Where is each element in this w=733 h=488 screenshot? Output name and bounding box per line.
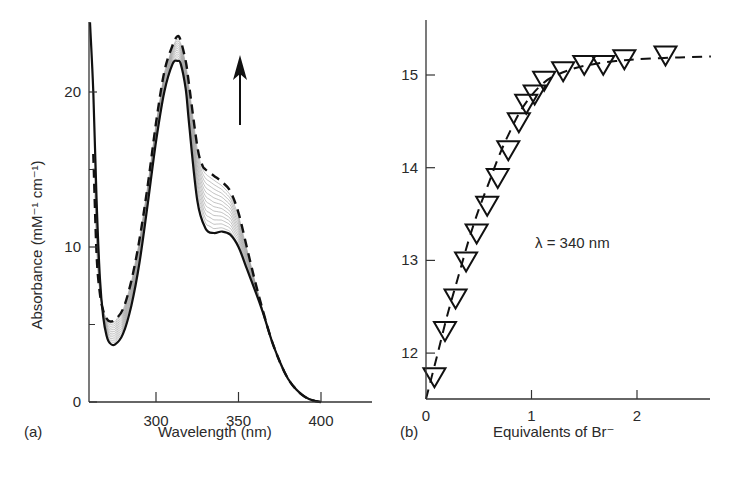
inverted-triangle-marker bbox=[445, 289, 467, 308]
inverted-triangle-marker bbox=[476, 197, 498, 216]
inverted-triangle-marker bbox=[466, 225, 488, 244]
panel-a-axes: 30035040001020 bbox=[64, 22, 372, 429]
svg-text:20: 20 bbox=[64, 83, 81, 100]
panel-b-titration-curve: 01212131415 λ = 340 nm (b) Equivalents o… bbox=[400, 20, 711, 440]
inverted-triangle-marker bbox=[508, 113, 530, 132]
svg-text:1: 1 bbox=[527, 407, 535, 424]
data-markers bbox=[423, 47, 676, 388]
svg-text:15: 15 bbox=[401, 66, 418, 83]
inverted-triangle-marker bbox=[455, 252, 477, 271]
initial-spectrum-line bbox=[90, 22, 321, 402]
panel-a-absorbance-spectra: 30035040001020 (a) Wavelength (nm) Absor… bbox=[24, 22, 372, 440]
svg-text:400: 400 bbox=[308, 412, 333, 429]
intermediate-traces bbox=[95, 39, 320, 402]
panel-b-xlabel: Equivalents of Br⁻ bbox=[493, 423, 614, 440]
panel-a-label: (a) bbox=[24, 423, 42, 440]
svg-text:0: 0 bbox=[73, 393, 81, 410]
panel-a-xlabel: Wavelength (nm) bbox=[158, 423, 272, 440]
panel-b-label: (b) bbox=[400, 423, 418, 440]
svg-text:14: 14 bbox=[401, 159, 418, 176]
panel-b-axes: 01212131415 bbox=[401, 20, 710, 424]
up-arrow-icon bbox=[233, 55, 247, 125]
panel-a-ylabel: Absorbance (mM⁻¹ cm⁻¹) bbox=[28, 160, 45, 329]
inverted-triangle-marker bbox=[423, 368, 445, 387]
inverted-triangle-marker bbox=[654, 47, 676, 66]
svg-text:12: 12 bbox=[401, 344, 418, 361]
fit-dashed-line bbox=[426, 57, 711, 400]
wavelength-annotation: λ = 340 nm bbox=[535, 234, 610, 251]
svg-text:0: 0 bbox=[422, 407, 430, 424]
inverted-triangle-marker bbox=[592, 56, 614, 75]
figure: 30035040001020 (a) Wavelength (nm) Absor… bbox=[0, 0, 733, 488]
svg-text:2: 2 bbox=[633, 407, 641, 424]
svg-text:13: 13 bbox=[401, 251, 418, 268]
svg-text:10: 10 bbox=[64, 238, 81, 255]
final-spectrum-dashed-line bbox=[93, 36, 321, 402]
